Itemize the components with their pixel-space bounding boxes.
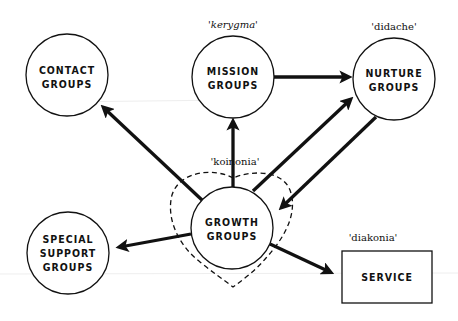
nurture-label-line2: GROUPS	[369, 81, 419, 93]
diakonia-annotation: 'diakonia'	[349, 232, 398, 243]
special-label-line3: GROUPS	[43, 261, 93, 273]
special-label-line1: SPECIAL	[43, 233, 94, 245]
node-service: 'diakonia' SERVICE	[342, 232, 432, 303]
mission-label-line2: GROUPS	[208, 79, 258, 91]
ministry-groups-diagram: CONTACT GROUPS 'kerygma' MISSION GROUPS …	[0, 0, 458, 321]
contact-label-line1: CONTACT	[39, 64, 95, 76]
growth-label-line1: GROWTH	[205, 216, 259, 228]
arrow-growth-to-nurture	[253, 100, 350, 191]
node-nurture-groups: 'didache' NURTURE GROUPS	[353, 21, 435, 120]
arrow-growth-to-service	[270, 244, 330, 272]
special-label-line2: SUPPORT	[40, 247, 97, 259]
node-contact-groups: CONTACT GROUPS	[26, 34, 108, 116]
arrow-growth-to-contact	[104, 108, 202, 200]
contact-label-line2: GROUPS	[42, 78, 92, 90]
growth-label-line2: GROUPS	[207, 230, 257, 242]
service-label: SERVICE	[361, 271, 413, 283]
mission-label-line1: MISSION	[207, 65, 260, 77]
kerygma-annotation: 'kerygma'	[208, 19, 258, 30]
didache-annotation: 'didache'	[371, 21, 416, 32]
arrow-nurture-to-growth	[282, 117, 376, 207]
nurture-label-line1: NURTURE	[365, 67, 422, 79]
node-special-support-groups: SPECIAL SUPPORT GROUPS	[27, 212, 109, 294]
node-mission-groups: 'kerygma' MISSION GROUPS	[192, 19, 274, 118]
arrow-growth-to-special	[120, 234, 191, 247]
koinonia-annotation: 'koinonia'	[211, 156, 260, 167]
